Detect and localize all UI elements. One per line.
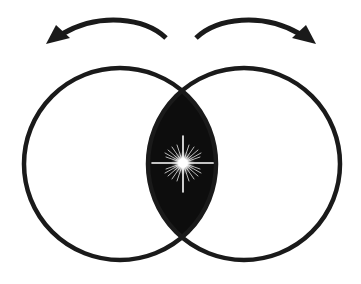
left-curved-arrow-icon [46,20,166,44]
vesica-piscis-diagram [0,0,361,284]
right-curved-arrow-icon [196,20,316,44]
diagram-canvas: Two overlapping circles (vesica piscis) … [0,0,361,284]
